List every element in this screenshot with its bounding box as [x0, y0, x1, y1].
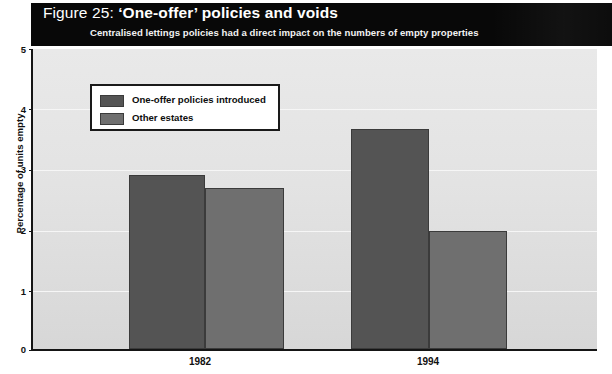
bar-1982-one-offer: [129, 175, 205, 349]
figure-title-band: Figure 25: ‘One-offer’ policies and void…: [31, 3, 612, 46]
bar-1994-other-estates: [429, 231, 507, 349]
gridline-2: [33, 231, 597, 232]
figure-title-main: ‘One-offer’ policies and voids: [118, 4, 338, 21]
legend-swatch-other-estates: [100, 113, 124, 125]
x-tick-1994: 1994: [388, 356, 468, 367]
legend-label-other-estates: Other estates: [132, 112, 193, 123]
plot-area: One-offer policies introduced Other esta…: [31, 49, 597, 351]
figure-subtitle: Centralised lettings policies had a dire…: [90, 27, 479, 38]
x-tick-1982: 1982: [160, 356, 240, 367]
legend-swatch-one-offer: [100, 95, 124, 107]
gridline-3: [33, 170, 597, 171]
legend-label-one-offer: One-offer policies introduced: [132, 94, 266, 105]
gridline-1: [33, 291, 597, 292]
figure-title: Figure 25: ‘One-offer’ policies and void…: [43, 4, 338, 22]
y-axis-label: Percentage of units empty: [14, 99, 25, 249]
y-tick-0: 0: [0, 344, 26, 355]
y-tick-1: 1: [0, 286, 26, 297]
chart-legend: One-offer policies introduced Other esta…: [90, 84, 280, 131]
figure-container: Figure 25: ‘One-offer’ policies and void…: [0, 0, 612, 374]
bar-1982-other-estates: [205, 188, 284, 349]
figure-number: Figure 25:: [43, 4, 118, 21]
bar-1994-one-offer: [351, 129, 429, 349]
y-tick-5: 5: [0, 44, 26, 55]
